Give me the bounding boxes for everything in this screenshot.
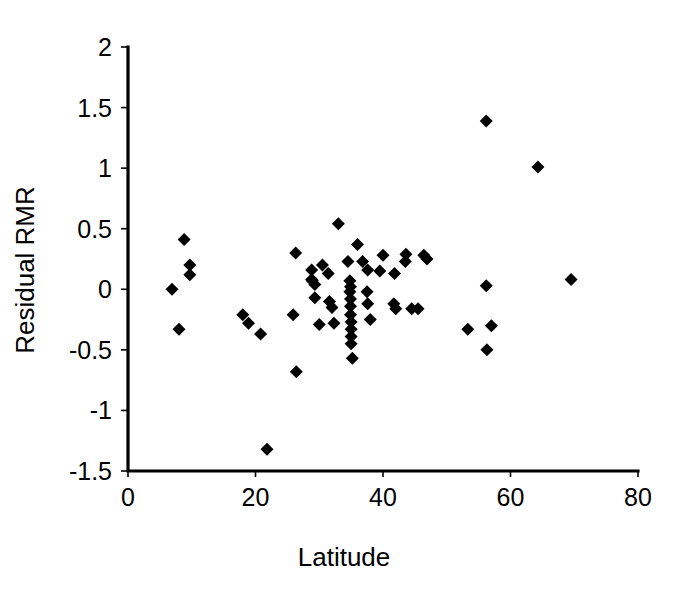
y-tick-label: 0 [98, 275, 112, 303]
x-tick-label: 0 [121, 483, 135, 511]
y-tick-label: -1.5 [69, 457, 112, 485]
y-tick-label: -0.5 [69, 336, 112, 364]
y-tick-label: -1 [90, 396, 112, 424]
x-axis-title: Latitude [298, 542, 391, 572]
y-axis-title: Residual RMR [10, 186, 40, 354]
x-tick-label: 80 [624, 483, 652, 511]
x-tick-label: 20 [242, 483, 270, 511]
x-tick-label: 40 [369, 483, 397, 511]
x-tick-label: 60 [497, 483, 525, 511]
y-tick-label: 2 [98, 33, 112, 61]
chart-canvas: 020406080 -1.5-1-0.500.511.52 Latitude R… [0, 0, 680, 590]
y-tick-label: 0.5 [77, 215, 112, 243]
scatter-chart: 020406080 -1.5-1-0.500.511.52 Latitude R… [0, 0, 680, 590]
y-tick-label: 1.5 [77, 94, 112, 122]
y-tick-label: 1 [98, 154, 112, 182]
